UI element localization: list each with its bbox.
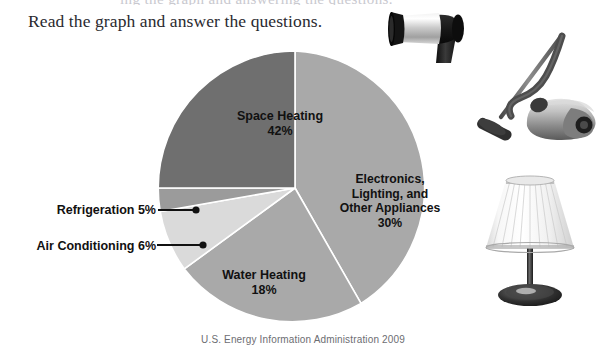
table-lamp-icon bbox=[470, 168, 594, 326]
hair-dryer-barrel bbox=[399, 13, 441, 44]
pie-label-air-conditioning: Air Conditioning 6% bbox=[4, 239, 156, 253]
pie-label-water-heating: Water Heating 18% bbox=[196, 268, 332, 297]
pie-label-electronics: Electronics, Lighting, and Other Applian… bbox=[326, 172, 454, 230]
pie-label-space-heating: Space Heating 42% bbox=[205, 109, 355, 138]
vacuum-cleaner-icon bbox=[470, 32, 600, 154]
chart-source-note: U.S. Energy Information Administration 2… bbox=[0, 334, 606, 345]
pie-label-refrigeration: Refrigeration 5% bbox=[14, 203, 156, 217]
worksheet-page: ing the graph and answering the question… bbox=[0, 0, 606, 357]
